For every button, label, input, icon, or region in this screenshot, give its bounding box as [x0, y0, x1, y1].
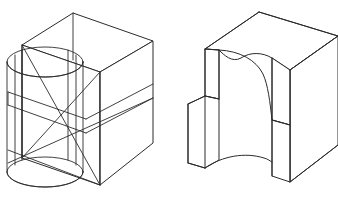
right-figure-solid-block-with-curved-notch [188, 12, 338, 182]
left-post [205, 49, 219, 99]
isometric-drawing-canvas: Isometric pictorial views [0, 0, 338, 198]
left-post-top-chamfer [188, 49, 205, 104]
drawing-sheet: Isometric pictorial views [0, 0, 338, 198]
right-post-lower [272, 120, 290, 182]
left-post-lower [188, 96, 219, 168]
box-outer-edges [22, 13, 153, 185]
right-post [272, 58, 290, 125]
notch-upper-curve [219, 50, 272, 120]
left-figure-wireframe-box-with-cylinder [7, 13, 153, 187]
